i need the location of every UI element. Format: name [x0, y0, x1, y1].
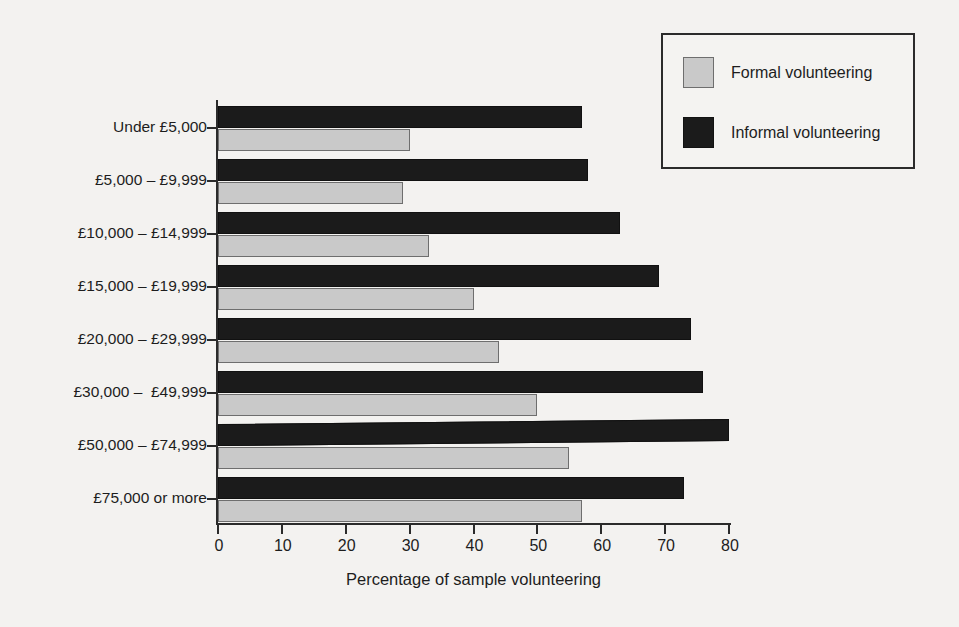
bar-informal — [218, 318, 691, 340]
x-axis-tick — [536, 525, 538, 534]
x-axis-tick — [217, 525, 219, 534]
x-axis-tick-label: 20 — [327, 537, 367, 555]
y-axis-tick-label-wrap: £75,000 or more — [0, 490, 207, 506]
x-axis-tick-label: 30 — [391, 537, 431, 555]
bar-group — [218, 317, 729, 370]
y-axis-tick-label-wrap: £20,000 – £29,999 — [0, 331, 207, 347]
y-axis-tick-label-wrap: Under £5,000 — [0, 119, 207, 135]
x-axis-tick — [664, 525, 666, 534]
x-axis-tick — [345, 525, 347, 534]
y-axis-tick-label: £20,000 – £29,999 — [7, 331, 207, 347]
y-axis-tick-label-wrap: £50,000 – £74,999 — [0, 437, 207, 453]
bar-group — [218, 476, 729, 529]
bar-group — [218, 423, 729, 476]
y-axis-tick — [207, 339, 218, 341]
x-axis-tick-label: 40 — [455, 537, 495, 555]
y-axis-tick — [207, 498, 218, 500]
bar-group — [218, 158, 729, 211]
y-axis-tick-label: £15,000 – £19,999 — [7, 278, 207, 294]
bar-informal — [218, 265, 659, 287]
legend-label-informal: Informal volunteering — [731, 124, 880, 142]
y-axis-tick-label-wrap: £5,000 – £9,999 — [0, 172, 207, 188]
bar-group — [218, 211, 729, 264]
y-axis-tick — [207, 233, 218, 235]
legend-item-formal: Formal volunteering — [683, 57, 872, 88]
bar-group — [218, 105, 729, 158]
bar-formal — [218, 500, 582, 522]
y-axis-tick-label: £5,000 – £9,999 — [7, 172, 207, 188]
legend-swatch-informal-icon — [683, 117, 714, 148]
bar-informal — [218, 477, 684, 499]
y-axis-tick — [207, 445, 218, 447]
x-axis-title: Percentage of sample volunteering — [218, 570, 729, 589]
x-axis-tick-label: 60 — [582, 537, 622, 555]
bar-formal — [218, 235, 429, 257]
x-axis-tick — [473, 525, 475, 534]
bar-informal — [218, 212, 620, 234]
x-axis-tick-label: 0 — [199, 537, 239, 555]
bar-group — [218, 264, 729, 317]
y-axis-tick-label: £50,000 – £74,999 — [7, 437, 207, 453]
x-axis-tick — [600, 525, 602, 534]
bar-formal — [218, 341, 499, 363]
bar-informal — [218, 106, 582, 128]
bar-informal — [218, 371, 703, 393]
bar-formal — [218, 394, 537, 416]
y-axis-tick — [207, 392, 218, 394]
x-axis-tick — [728, 525, 730, 534]
y-axis-tick — [207, 286, 218, 288]
y-axis-tick — [207, 180, 218, 182]
y-axis-tick-label-wrap: £15,000 – £19,999 — [0, 278, 207, 294]
x-axis-tick-label: 50 — [518, 537, 558, 555]
y-axis-tick-label: £75,000 or more — [7, 490, 207, 506]
legend: Formal volunteering Informal volunteerin… — [661, 33, 915, 169]
x-axis-tick-label: 10 — [263, 537, 303, 555]
y-axis-tick-label-wrap: £30,000 – £49,999 — [0, 384, 207, 400]
y-axis-tick-label-wrap: £10,000 – £14,999 — [0, 225, 207, 241]
bar-formal — [218, 447, 569, 469]
legend-swatch-formal-icon — [683, 57, 714, 88]
x-axis-tick — [281, 525, 283, 534]
x-axis-tick-label: 70 — [646, 537, 686, 555]
y-axis-tick-label: £30,000 – £49,999 — [7, 384, 207, 400]
bar-informal — [218, 159, 588, 181]
x-axis-tick — [409, 525, 411, 534]
y-axis-tick-label: Under £5,000 — [7, 119, 207, 135]
legend-label-formal: Formal volunteering — [731, 64, 872, 82]
bar-informal — [218, 419, 729, 446]
bar-formal — [218, 288, 474, 310]
bar-chart: Under £5,000£5,000 – £9,999£10,000 – £14… — [0, 0, 959, 627]
y-axis-tick-label: £10,000 – £14,999 — [7, 225, 207, 241]
bar-formal — [218, 182, 403, 204]
bar-formal — [218, 129, 410, 151]
legend-item-informal: Informal volunteering — [683, 117, 880, 148]
x-axis-tick-label: 80 — [710, 537, 750, 555]
bar-group — [218, 370, 729, 423]
plot-area — [218, 100, 729, 524]
y-axis-tick — [207, 127, 218, 129]
